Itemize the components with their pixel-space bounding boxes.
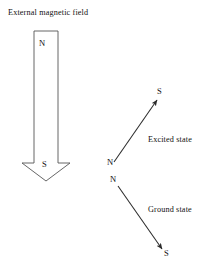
excited-state-arrow-icon <box>114 100 157 162</box>
ground-state-arrow-icon <box>118 186 162 249</box>
excited-state-south-pole-label: S <box>157 87 162 96</box>
magnet-north-pole-label: N <box>39 39 45 48</box>
figure-title: External magnetic field <box>8 9 88 17</box>
ground-state-south-pole-label: S <box>164 249 169 258</box>
excited-state-north-pole-label: N <box>107 158 113 167</box>
ground-state-north-pole-label: N <box>110 175 116 184</box>
magnet-south-pole-label: S <box>42 160 47 169</box>
excited-state-label: Excited state <box>148 136 192 144</box>
ground-state-label: Ground state <box>148 206 192 214</box>
